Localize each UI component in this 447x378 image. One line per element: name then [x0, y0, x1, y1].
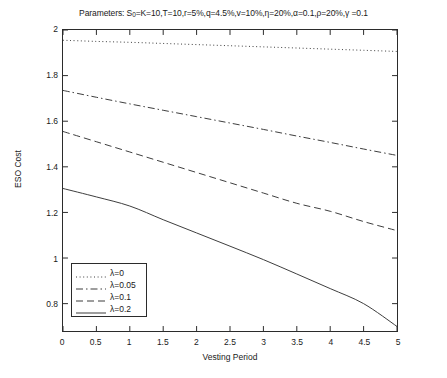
x-axis-label: Vesting Period [62, 352, 398, 362]
legend-line-sample-icon [75, 268, 107, 278]
chart-title: Parameters: S0=K=10,T=10,r=5%,q=4.5%,v=1… [0, 8, 447, 18]
legend-item-label: λ=0.05 [107, 280, 136, 290]
series-line-2 [63, 131, 397, 230]
x-tick-label: 5 [378, 337, 418, 347]
y-tick-label: 1.6 [22, 116, 58, 126]
legend-item-label: λ=0.2 [107, 304, 131, 314]
chart-title-rest: =K=10,T=10,r=5%,q=4.5%,v=10%,η=20%,α=0.1… [136, 8, 368, 18]
legend-item[interactable]: λ=0.2 [75, 303, 142, 315]
legend-line-sample-icon [75, 304, 107, 314]
legend-item-label: λ=0.1 [107, 292, 131, 302]
y-axis-tick-labels: 0.811.21.41.61.82 [18, 29, 58, 332]
y-tick-label: 0.8 [22, 299, 58, 309]
legend-item[interactable]: λ=0 [75, 267, 142, 279]
series-line-0 [63, 40, 397, 51]
series-line-1 [63, 90, 397, 155]
y-tick-label: 1.2 [22, 208, 58, 218]
y-tick-label: 1 [22, 254, 58, 264]
y-tick-label: 1.4 [22, 162, 58, 172]
legend: λ=0λ=0.05λ=0.1λ=0.2 [71, 263, 147, 317]
x-axis-tick-labels: 00.511.522.533.544.55 [62, 337, 398, 351]
legend-item[interactable]: λ=0.1 [75, 291, 142, 303]
chart-figure: Parameters: S0=K=10,T=10,r=5%,q=4.5%,v=1… [0, 0, 447, 378]
y-tick-label: 2 [22, 24, 58, 34]
y-axis-label: ESO Cost [13, 129, 23, 209]
legend-line-sample-icon [75, 280, 107, 290]
y-tick-label: 1.8 [22, 70, 58, 80]
legend-item-label: λ=0 [107, 268, 124, 278]
chart-title-prefix: Parameters: S [79, 8, 132, 18]
legend-item[interactable]: λ=0.05 [75, 279, 142, 291]
legend-line-sample-icon [75, 292, 107, 302]
